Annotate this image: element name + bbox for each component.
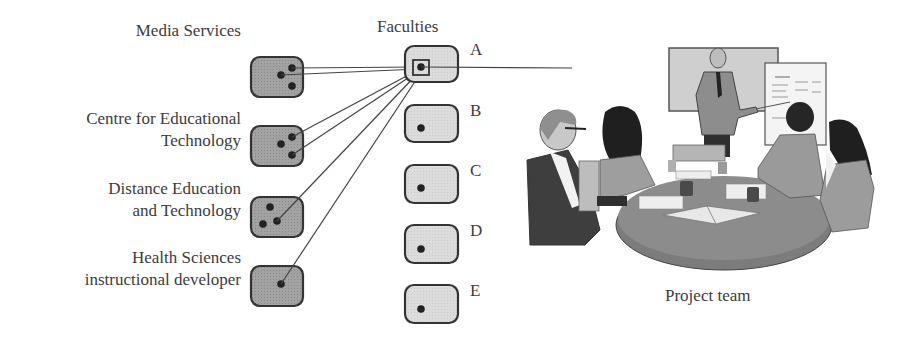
connection-line [292, 72, 417, 155]
team-member-long-hair-icon [820, 120, 874, 232]
faculty-letter: D [470, 221, 482, 241]
member-dot [277, 140, 285, 148]
chair-icon [673, 145, 725, 161]
support-unit-label-line: instructional developer [85, 269, 241, 291]
faculty-box-c [405, 165, 458, 203]
faculty-letter: A [470, 40, 482, 60]
connection-lines [277, 67, 420, 284]
member-dot [417, 245, 425, 253]
faculty-letter: E [470, 281, 480, 301]
diagram-canvas: Media ServicesCentre for EducationalTech… [0, 0, 913, 343]
project-team-illustration-icon [527, 48, 874, 270]
faculty-box-a [405, 46, 458, 82]
project-team-caption: Project team [665, 285, 750, 307]
support-unit-label: Centre for EducationalTechnology [86, 108, 241, 152]
support-unit-box [251, 197, 303, 237]
connection-line [292, 67, 419, 68]
support-unit-boxes [251, 57, 303, 306]
member-dot [266, 203, 274, 211]
support-unit-label-line: Centre for Educational [86, 108, 241, 130]
member-dot [417, 305, 425, 313]
support-unit-box [251, 266, 303, 306]
support-unit-label-line: Health Sciences [85, 247, 241, 269]
support-unit-box [251, 126, 303, 166]
faculty-box-e [405, 285, 458, 323]
connection-line [292, 71, 416, 137]
member-dot [417, 124, 425, 132]
support-unit-label: Health Sciencesinstructional developer [85, 247, 241, 291]
member-dot [288, 82, 296, 90]
support-unit-label-line: Technology [86, 130, 241, 152]
diagram-graphic [0, 0, 913, 343]
faculty-letter: C [470, 161, 481, 181]
member-dot [417, 184, 425, 192]
faculty-box-b [405, 105, 458, 142]
support-unit-label-line: Distance Education [108, 178, 241, 200]
faculty-box-d [405, 225, 458, 263]
support-unit-box [251, 57, 303, 97]
support-unit-label-line: and Technology [108, 200, 241, 222]
member-dot [259, 220, 267, 228]
faculty-letter: B [470, 101, 481, 121]
support-unit-label: Distance Educationand Technology [108, 178, 241, 222]
support-unit-label-line: Media Services [136, 20, 241, 42]
support-unit-label: Media Services [136, 20, 241, 42]
faculties-title: Faculties [377, 16, 438, 38]
